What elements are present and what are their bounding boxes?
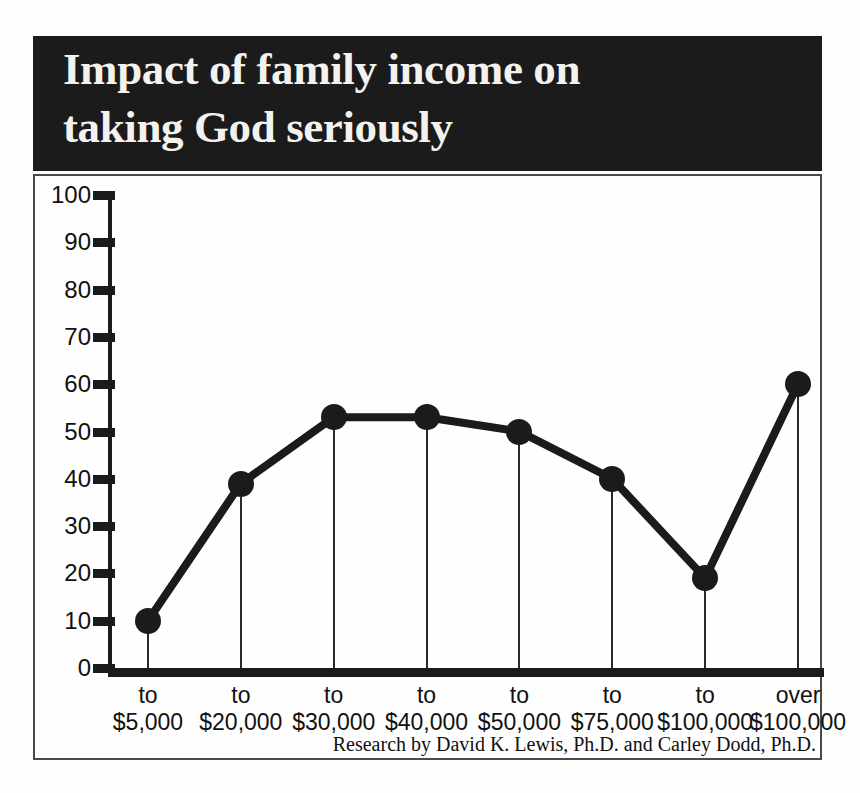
data-point-dropline — [611, 479, 613, 668]
attribution-text: Research by David K. Lewis, Ph.D. and Ca… — [333, 733, 816, 756]
data-point-dropline — [518, 432, 520, 669]
y-axis-tick — [93, 286, 115, 295]
y-axis-tick-label-text: 20 — [39, 561, 91, 585]
y-axis-tick-label: 60 — [35, 372, 91, 396]
data-point-marker[interactable] — [321, 404, 347, 430]
data-point-dropline — [333, 417, 335, 668]
data-point-marker[interactable] — [599, 466, 625, 492]
x-axis-line — [108, 668, 824, 677]
y-axis-tick-label: 100 — [35, 183, 91, 207]
y-axis-tick — [93, 333, 115, 342]
x-axis-category-line-1: over — [738, 682, 858, 709]
y-axis-tick — [93, 664, 115, 673]
y-axis-tick-label-text: 100 — [39, 183, 91, 207]
y-axis-tick-label-text: 40 — [39, 467, 91, 491]
y-axis-tick-label: 40 — [35, 467, 91, 491]
y-axis-tick-label: 20 — [35, 561, 91, 585]
chart-title-line-1: Impact of family income on — [63, 44, 580, 94]
data-point-dropline — [704, 578, 706, 668]
data-point-marker[interactable] — [506, 419, 532, 445]
data-point-dropline — [240, 484, 242, 668]
data-point-dropline — [797, 384, 799, 668]
y-axis-tick — [93, 617, 115, 626]
chart-title-line-2: taking God seriously — [63, 102, 453, 152]
x-axis-category-label: over$100,000 — [738, 682, 858, 736]
y-axis-tick-label: 10 — [35, 609, 91, 633]
y-axis-tick — [93, 569, 115, 578]
data-point-dropline — [426, 417, 428, 668]
y-axis-tick-label-text: 70 — [39, 325, 91, 349]
y-axis-tick-label-text: 0 — [39, 656, 91, 680]
y-axis-tick — [93, 522, 115, 531]
x-axis-category-line-2: $100,000 — [738, 709, 858, 736]
data-point-marker[interactable] — [228, 471, 254, 497]
y-axis-tick-label: 90 — [35, 230, 91, 254]
title-banner: Impact of family income on taking God se… — [33, 36, 822, 171]
data-point-marker[interactable] — [414, 404, 440, 430]
y-axis-tick-label: 70 — [35, 325, 91, 349]
y-axis-tick — [93, 380, 115, 389]
y-axis-tick — [93, 191, 115, 200]
y-axis-tick-label-text: 50 — [39, 420, 91, 444]
y-axis-tick-label: 30 — [35, 514, 91, 538]
y-axis-tick-label-text: 80 — [39, 278, 91, 302]
y-axis-tick-label-text: 30 — [39, 514, 91, 538]
y-axis-tick-label-text: 10 — [39, 609, 91, 633]
y-axis-tick — [93, 475, 115, 484]
y-axis-tick — [93, 238, 115, 247]
y-axis-tick-label: 80 — [35, 278, 91, 302]
y-axis-tick-label-text: 90 — [39, 230, 91, 254]
chart-title: Impact of family income on taking God se… — [63, 40, 783, 156]
y-axis-tick-label-text: 60 — [39, 372, 91, 396]
data-point-marker[interactable] — [785, 371, 811, 397]
y-axis-tick-label: 0 — [35, 656, 91, 680]
y-axis-tick — [93, 428, 115, 437]
data-point-marker[interactable] — [135, 608, 161, 634]
plot-area: 0102030405060708090100to$5,000to$20,000t… — [35, 176, 824, 762]
y-axis-tick-label: 50 — [35, 420, 91, 444]
chart-frame: 0102030405060708090100to$5,000to$20,000t… — [33, 174, 822, 760]
